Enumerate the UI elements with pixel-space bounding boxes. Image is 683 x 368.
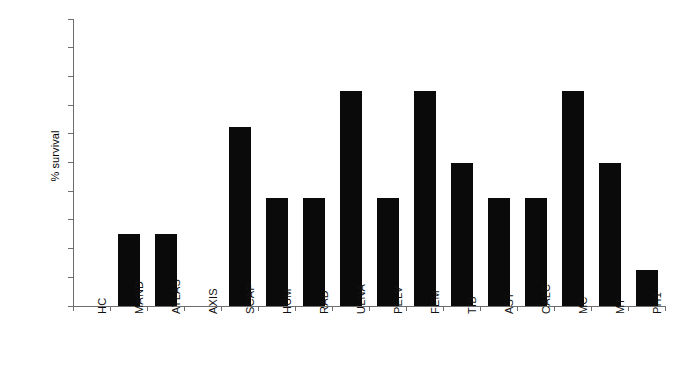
x-tick-mark (73, 306, 74, 311)
x-tick-mark (443, 306, 444, 311)
x-tick-mark (221, 306, 222, 311)
x-tick-mark (517, 306, 518, 311)
x-tick-mark (332, 306, 333, 311)
y-tick-mark (68, 19, 73, 20)
x-label-scap: SCAP (244, 283, 256, 314)
x-label-mc: MC (577, 296, 589, 314)
y-axis-title: % survival (49, 111, 61, 201)
x-tick-mark (258, 306, 259, 311)
bar-ulna (340, 91, 362, 306)
x-label-tib: TIB (466, 296, 478, 314)
survival-bar-chart: % survival 0102030405060708090100 HCMAND… (0, 0, 683, 368)
x-tick-mark (184, 306, 185, 311)
x-label-ast: AST (503, 292, 515, 314)
x-tick-mark (480, 306, 481, 311)
x-label-calc: CALC (540, 284, 552, 314)
x-label-hc: HC (96, 298, 108, 314)
bar-scap (229, 127, 251, 306)
x-label-mt: MT (614, 298, 626, 314)
x-label-pelv: PELV (392, 286, 404, 314)
bar-mt (599, 163, 621, 307)
y-tick-mark (68, 219, 73, 220)
x-tick-mark (665, 306, 666, 311)
y-tick-mark (68, 162, 73, 163)
x-tick-mark (147, 306, 148, 311)
x-tick-mark (295, 306, 296, 311)
x-tick-mark (110, 306, 111, 311)
x-tick-mark (591, 306, 592, 311)
x-label-rad: RAD (318, 290, 330, 314)
bar-mc (562, 91, 584, 306)
y-axis-line (73, 19, 74, 307)
y-tick-mark (68, 248, 73, 249)
bar-ast (488, 198, 510, 306)
x-tick-mark (406, 306, 407, 311)
y-tick-mark (68, 47, 73, 48)
x-label-ph1: PH1 (651, 292, 663, 314)
y-tick-mark (68, 105, 73, 106)
bar-tib (451, 163, 473, 307)
x-label-atlas: ATLAS (170, 279, 182, 314)
y-tick-mark (68, 133, 73, 134)
x-label-hum: HUM (281, 288, 293, 314)
x-tick-mark (369, 306, 370, 311)
x-tick-mark (628, 306, 629, 311)
bar-fem (414, 91, 436, 306)
y-tick-mark (68, 191, 73, 192)
x-tick-mark (554, 306, 555, 311)
x-label-mand: MAND (133, 281, 145, 314)
y-tick-mark (68, 76, 73, 77)
x-label-ulna: ULNA (355, 284, 367, 314)
x-label-axis: AXIS (207, 288, 219, 314)
y-tick-mark (68, 277, 73, 278)
x-label-fem: FEM (429, 290, 441, 314)
